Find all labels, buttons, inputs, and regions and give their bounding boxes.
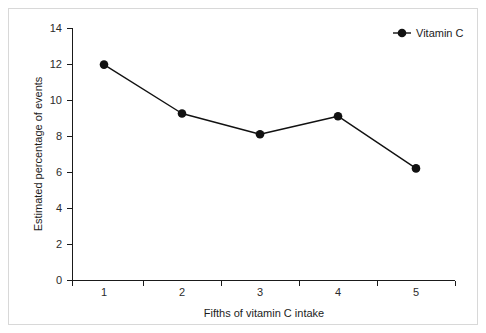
x-tick-label-5: 5 — [413, 286, 419, 298]
y-tick-label-12: 12 — [50, 58, 62, 70]
x-tick-label-3: 3 — [257, 286, 263, 298]
y-tick-label-4: 4 — [56, 202, 62, 214]
x-tick-label-4: 4 — [335, 286, 341, 298]
chart-legend: Vitamin C — [393, 27, 464, 39]
y-tick-label-10: 10 — [50, 94, 62, 106]
x-tick-label-1: 1 — [101, 286, 107, 298]
data-point-2 — [178, 109, 187, 118]
data-point-1 — [100, 60, 109, 69]
chart-figure: 0 2 4 6 8 10 12 14 1 2 3 4 5 Fifths of v… — [0, 0, 486, 333]
series-line-vitamin-c — [104, 65, 416, 169]
x-axis-title: Fifths of vitamin C intake — [204, 307, 324, 319]
x-axis-ticks — [73, 281, 456, 287]
data-point-5 — [412, 164, 421, 173]
y-tick-label-6: 6 — [56, 166, 62, 178]
y-axis-ticks — [67, 29, 73, 281]
y-axis-tick-labels: 0 2 4 6 8 10 12 14 — [50, 22, 62, 286]
legend-marker-icon — [398, 29, 407, 38]
y-axis-title: Estimated percentage of events — [32, 76, 44, 231]
data-point-4 — [334, 112, 343, 121]
y-tick-label-8: 8 — [56, 130, 62, 142]
y-tick-label-14: 14 — [50, 22, 62, 34]
data-point-3 — [256, 130, 265, 139]
y-tick-label-2: 2 — [56, 238, 62, 250]
series-markers-vitamin-c — [100, 60, 421, 172]
x-tick-label-2: 2 — [179, 286, 185, 298]
legend-label-vitamin-c: Vitamin C — [416, 27, 464, 39]
x-axis-tick-labels: 1 2 3 4 5 — [101, 286, 419, 298]
line-chart-canvas: 0 2 4 6 8 10 12 14 1 2 3 4 5 Fifths of v… — [0, 0, 486, 333]
y-tick-label-0: 0 — [56, 274, 62, 286]
